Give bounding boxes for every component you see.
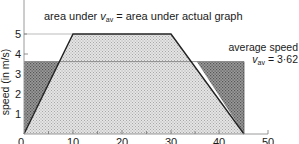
average-speed-label: average speed xyxy=(229,41,299,53)
svg-text:0: 0 xyxy=(18,136,24,144)
chart-title: area under vav = area under actual graph xyxy=(44,10,243,23)
x-tick-labels: 0 10 20 30 40 50 xyxy=(18,136,274,144)
y-axis-label: speed (in m/s) xyxy=(0,49,11,116)
svg-text:40: 40 xyxy=(213,136,225,144)
svg-text:1: 1 xyxy=(15,108,21,120)
svg-text:5: 5 xyxy=(15,28,21,40)
svg-text:4: 4 xyxy=(15,48,21,60)
average-speed-value: vav = 3·62 xyxy=(252,53,298,66)
svg-text:20: 20 xyxy=(116,136,128,144)
actual-graph-area xyxy=(24,34,244,134)
svg-text:3: 3 xyxy=(15,68,21,80)
svg-text:50: 50 xyxy=(262,136,274,144)
speed-time-chart: area under vav = area under actual graph… xyxy=(0,0,299,144)
svg-text:2: 2 xyxy=(15,88,21,100)
svg-text:30: 30 xyxy=(165,136,177,144)
y-tick-labels: 1 2 3 4 5 xyxy=(15,28,21,120)
svg-text:10: 10 xyxy=(67,136,79,144)
